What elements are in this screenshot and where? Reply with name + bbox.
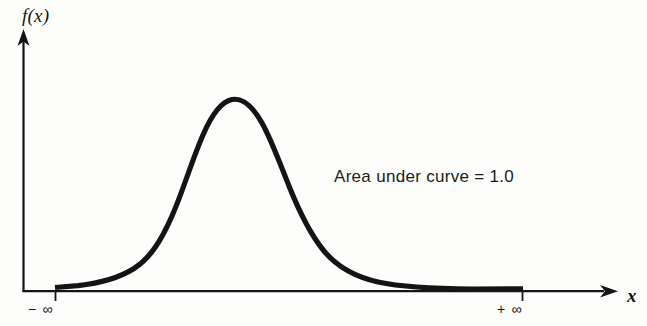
y-axis-label: f(x) [22,6,49,25]
x-axis-label: x [627,286,637,305]
x-tick-label-negative-infinity: − ∞ [28,302,54,316]
x-tick-label-positive-infinity: + ∞ [497,302,523,316]
figure-canvas [0,0,647,326]
density-figure: f(x) x − ∞ + ∞ Area under curve = 1.0 [0,0,647,326]
probability-density-curve [55,99,523,289]
area-under-curve-annotation: Area under curve = 1.0 [334,168,514,185]
